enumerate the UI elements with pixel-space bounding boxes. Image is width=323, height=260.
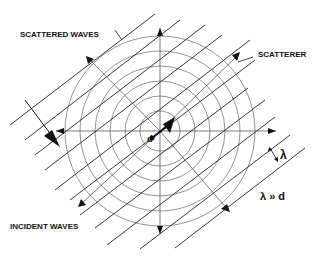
scattered-waves-label: SCATTERED WAVES [20,30,99,39]
scattering-diagram [0,0,323,260]
incident-waves-label: INCIDENT WAVES [10,222,78,231]
incident-direction-arrow [25,100,60,147]
wavelength-marker [268,147,278,162]
d-label: d [147,134,153,144]
scatterer-label: SCATTERER [258,50,306,59]
relation-label: λ » d [260,190,285,202]
pointer-lines [115,30,253,62]
lambda-label: λ [280,148,287,162]
